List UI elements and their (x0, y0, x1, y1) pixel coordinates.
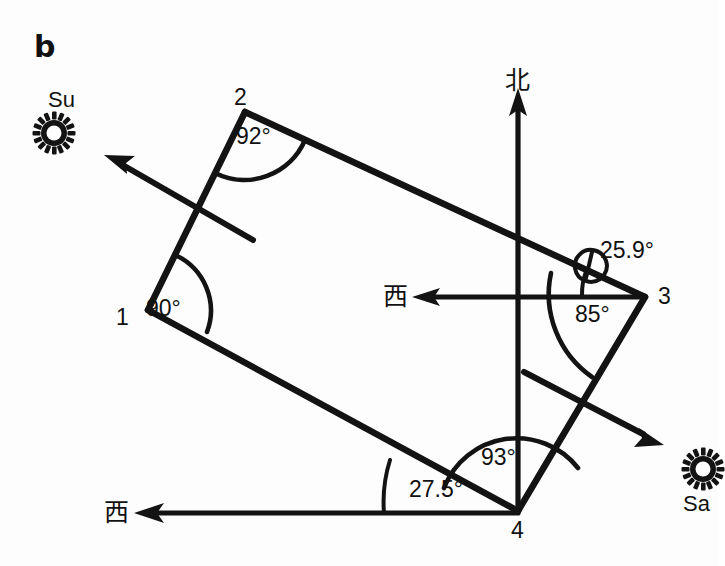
angle-arcs (175, 140, 607, 513)
bearing-label-v3: 25.9° (600, 239, 654, 262)
angle-label-v3: 85° (575, 303, 610, 326)
west-axis-upper (412, 288, 645, 306)
west-label-lower: 西 (104, 500, 129, 525)
angle-label-v2: 92° (236, 125, 271, 148)
sunrise-ray (104, 155, 253, 240)
vertex-label-2: 2 (234, 86, 247, 109)
panel-letter: b (34, 32, 55, 62)
north-label: 北 (505, 68, 530, 93)
quadrilateral-outline (148, 112, 645, 511)
sun-icon (681, 447, 725, 491)
vertex-label-1: 1 (116, 306, 129, 329)
sun-icon (32, 111, 76, 155)
edge-1-2 (148, 112, 245, 310)
vertex-label-4: 4 (511, 519, 524, 542)
angle-label-v4: 93° (481, 446, 516, 469)
angle-label-v1: 90° (146, 297, 181, 320)
angle-arc-bearing-v4 (384, 460, 390, 513)
sunset-ray-line (524, 372, 643, 434)
west-axis-lower (134, 503, 518, 523)
sunset-label: Sa (683, 493, 710, 515)
sunrise-label: Su (48, 89, 75, 111)
vertex-label-3: 3 (658, 285, 671, 308)
west-label-upper: 西 (383, 284, 408, 309)
bearing-label-v4: 27.5° (409, 478, 463, 501)
